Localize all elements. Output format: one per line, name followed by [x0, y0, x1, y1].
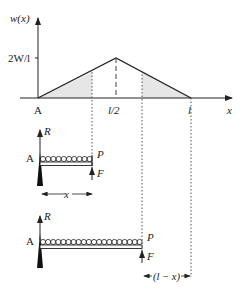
support-label: A	[26, 235, 34, 247]
midpoint-label: l/2	[108, 104, 120, 116]
reaction-label: R	[43, 125, 51, 137]
beam-bar	[40, 162, 92, 166]
length-label: l	[188, 104, 191, 116]
y-axis-label: w(x)	[10, 12, 30, 25]
load-coils	[40, 239, 142, 244]
length-x-label: x	[63, 188, 69, 200]
reaction-label: R	[43, 210, 51, 222]
force-label: F	[96, 167, 104, 179]
support-triangle-icon	[37, 152, 43, 186]
end-point-label: P	[96, 148, 104, 160]
support-label: A	[26, 152, 34, 164]
beam-bar	[40, 245, 142, 249]
support-triangle-icon	[37, 233, 43, 268]
diagram-canvas: w(x) 2W/l A l/2 l x R A P F x	[0, 0, 245, 295]
remaining-length-label: (l − x)	[153, 271, 180, 283]
beam-bottom: R A P F (l − x)	[26, 210, 190, 283]
beam-load-diagram: w(x) 2W/l A l/2 l x R A P F x	[0, 0, 245, 295]
y-tick-label: 2W/l	[8, 52, 30, 64]
force-label: F	[146, 250, 154, 262]
origin-label: A	[34, 104, 42, 116]
load-coils	[40, 156, 92, 161]
end-point-label: P	[146, 231, 154, 243]
x-axis-label: x	[226, 104, 232, 116]
